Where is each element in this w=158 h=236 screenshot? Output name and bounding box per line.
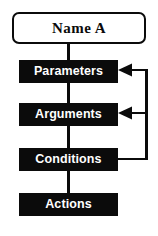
arrowhead-into-arguments <box>118 107 132 120</box>
node-conditions-label: Conditions <box>35 153 101 166</box>
arrowhead-into-parameters <box>118 64 132 77</box>
node-parameters[interactable]: Parameters <box>19 60 118 83</box>
node-actions[interactable]: Actions <box>19 193 118 216</box>
node-name-a[interactable]: Name A <box>12 12 146 44</box>
node-name-a-label: Name A <box>52 21 106 36</box>
node-arguments-label: Arguments <box>35 108 102 121</box>
flowchart-diagram: Name A Parameters Arguments Conditions A… <box>0 0 158 236</box>
node-parameters-label: Parameters <box>34 65 103 78</box>
node-arguments[interactable]: Arguments <box>19 103 118 126</box>
node-conditions[interactable]: Conditions <box>19 148 118 171</box>
node-actions-label: Actions <box>45 198 92 211</box>
